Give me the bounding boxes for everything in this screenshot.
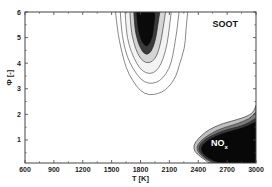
y-tick-label: 3 xyxy=(17,85,21,92)
contour-chart: 6009001200150018002100240027003000123456… xyxy=(0,0,272,187)
x-tick-label: 2100 xyxy=(162,166,178,173)
y-tick-label: 5 xyxy=(17,34,21,41)
y-tick-label: 2 xyxy=(17,111,21,118)
y-tick-label: 6 xyxy=(17,9,21,16)
x-tick-label: 1200 xyxy=(75,166,91,173)
x-tick-label: 1800 xyxy=(133,166,149,173)
x-tick-label: 600 xyxy=(19,166,31,173)
y-tick-label: 1 xyxy=(17,136,21,143)
y-axis-label: Φ [-] xyxy=(5,69,14,85)
x-axis-label: T [K] xyxy=(132,174,150,183)
region-soot xyxy=(116,7,188,95)
x-tick-label: 1500 xyxy=(104,166,120,173)
x-tick-label: 900 xyxy=(48,166,60,173)
y-tick-label: 4 xyxy=(17,60,21,67)
x-tick-label: 2400 xyxy=(190,166,206,173)
contour-regions xyxy=(116,7,257,163)
region-nox xyxy=(194,105,256,163)
x-tick-label: 3000 xyxy=(248,166,264,173)
x-tick-label: 2700 xyxy=(219,166,235,173)
annotation-soot: SOOT xyxy=(212,19,238,29)
